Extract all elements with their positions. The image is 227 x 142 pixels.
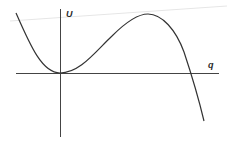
potential-energy-diagram: U q <box>0 0 227 142</box>
potential-curve <box>16 13 204 121</box>
x-axis-label: q <box>208 60 214 70</box>
y-axis-label: U <box>66 9 73 19</box>
faint-scan-line <box>10 6 227 21</box>
